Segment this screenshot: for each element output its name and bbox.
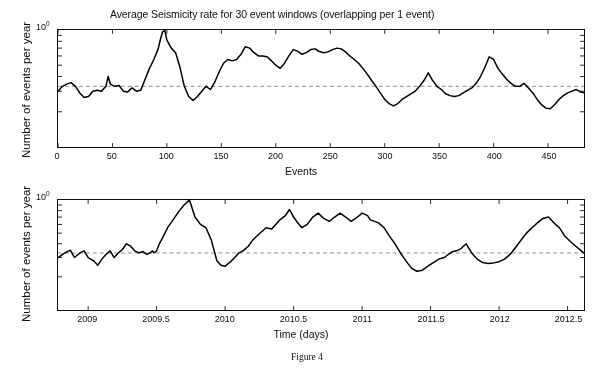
x-tick-label: 250 <box>323 151 338 161</box>
figure-caption: Figure 4 <box>291 352 323 362</box>
top-panel-x-axis-label: Events <box>285 165 317 177</box>
x-tick-label: 300 <box>377 151 392 161</box>
x-tick-label: 400 <box>487 151 502 161</box>
bottom-panel-plot-area <box>57 199 585 311</box>
bottom-panel-y-axis-label: Number of events per year <box>20 186 32 322</box>
x-tick-label: 150 <box>213 151 228 161</box>
x-tick-label: 2012 <box>490 314 510 324</box>
x-tick-label: 50 <box>107 151 117 161</box>
top-panel-y-tick-10e0: 100 <box>36 22 50 32</box>
x-tick-label: 350 <box>432 151 447 161</box>
x-tick-label: 200 <box>268 151 283 161</box>
top-panel-plot-svg <box>58 30 584 147</box>
top-panel-y-minor-ticks <box>58 35 584 111</box>
x-tick-label: 450 <box>541 151 556 161</box>
bottom-panel-plot-svg <box>58 200 584 310</box>
x-tick-label: 2010 <box>215 314 235 324</box>
top-panel-data-series <box>58 30 584 109</box>
bottom-panel-x-axis-label: Time (days) <box>273 328 328 340</box>
x-tick-label: 100 <box>159 151 174 161</box>
bottom-panel-x-ticks <box>88 200 567 310</box>
bottom-panel-y-tick-10e0: 100 <box>36 192 50 202</box>
x-tick-label: 2010.5 <box>280 314 308 324</box>
x-tick-label: 2011.5 <box>418 314 445 324</box>
x-tick-label: 2012.5 <box>555 314 583 324</box>
top-panel-plot-area <box>57 29 585 148</box>
x-tick-label: 2009 <box>77 314 97 324</box>
top-panel-y-axis-label: Number of events per year <box>20 22 32 158</box>
figure-4: Average Seismicity rate for 30 event win… <box>0 0 615 370</box>
x-tick-label: 2009.5 <box>142 314 170 324</box>
bottom-panel-data-series <box>58 200 584 271</box>
x-tick-label: 0 <box>54 151 59 161</box>
top-panel-title: Average Seismicity rate for 30 event win… <box>110 8 434 20</box>
x-tick-label: 2011 <box>353 314 372 324</box>
